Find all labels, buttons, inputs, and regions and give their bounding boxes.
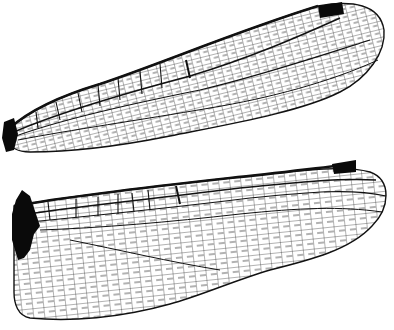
- forewing: [2, 2, 384, 152]
- hindwing: [12, 160, 386, 319]
- pterostigma: [332, 160, 356, 174]
- wing-illustration: Dragonfly wing venation illustration: [0, 0, 394, 330]
